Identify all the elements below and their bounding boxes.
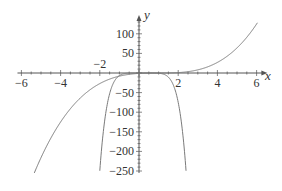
- y-tick-label: −250: [109, 164, 134, 178]
- x-tick-label: 4: [214, 76, 220, 90]
- y-axis-arrow-icon: [137, 15, 142, 21]
- y-axis-label: y: [142, 7, 150, 22]
- x-axis-label: x: [264, 68, 271, 83]
- tick-labels: −6−4−224610050−50−100−150−200−250: [15, 27, 260, 178]
- y-tick-label: −50: [115, 86, 134, 100]
- y-tick-label: −200: [109, 144, 134, 158]
- x-tick-label: 6: [254, 76, 260, 90]
- x-tick-label: −4: [54, 76, 67, 90]
- function-plot: −6−4−224610050−50−100−150−200−250 x y: [0, 0, 282, 191]
- y-tick-label: 50: [122, 46, 134, 60]
- curves: [34, 23, 257, 173]
- y-tick-label: 100: [116, 27, 134, 41]
- x-tick-label: −2: [93, 57, 106, 71]
- x-tick-label: 2: [175, 76, 181, 90]
- axes: [17, 15, 267, 173]
- cubic-curve: [34, 23, 257, 173]
- x-tick-label: −6: [15, 76, 28, 90]
- y-tick-label: −100: [109, 105, 134, 119]
- y-tick-label: −150: [109, 125, 134, 139]
